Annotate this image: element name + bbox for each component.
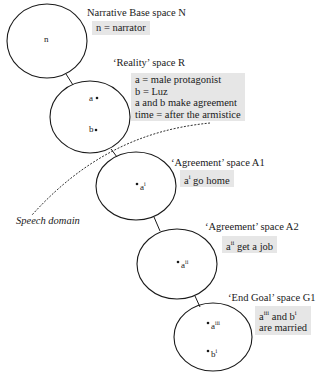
note-line: aiii and bi (259, 307, 307, 322)
element-dot (177, 261, 180, 264)
space-n-notes: n = narrator (92, 21, 150, 35)
element-a-i: ai (140, 179, 146, 192)
element-dot (207, 350, 210, 353)
element-dot (95, 129, 98, 132)
element-sup: iii (215, 320, 220, 326)
note-line: a = male protagonist (135, 74, 241, 86)
space-g1-notes: aiii and bi are married (255, 306, 311, 335)
space-g1-circle (174, 303, 252, 371)
space-a1-title: ‘Agreement’ space A1 (171, 157, 265, 169)
element-sup: ii (185, 259, 188, 265)
space-g1-title: ‘End Goal’ space G1 (228, 292, 316, 304)
note-sup: i (295, 309, 297, 316)
space-a2-notes: aii get a job (222, 236, 277, 253)
note-line: time = after the armistice (135, 109, 241, 121)
space-r-notes: a = male protagonist b = Luz a and b mak… (131, 73, 245, 121)
element-dot (96, 97, 99, 100)
note-line: are married (259, 322, 307, 334)
element-b-i: bi (211, 346, 217, 359)
space-a2-circle (137, 229, 217, 299)
note-text: go home (190, 175, 229, 186)
element-n: n (44, 34, 49, 44)
element-sup: i (216, 348, 218, 354)
element-a-ii: aii (181, 257, 188, 270)
element-b: b (89, 124, 94, 134)
space-n-title: Narrative Base space N (87, 7, 186, 19)
space-r-circle (50, 81, 130, 153)
speech-domain-boundary (32, 123, 210, 215)
note-line: a and b make agreement (135, 97, 241, 109)
note-line: n = narrator (96, 22, 146, 34)
space-a2-title: ‘Agreement’ space A2 (205, 221, 299, 233)
connector-a1-a2 (154, 217, 160, 231)
space-a1-circle (96, 152, 176, 220)
element-a: a (89, 93, 93, 103)
connector-n-r (66, 74, 73, 85)
note-text: get a job (234, 241, 273, 252)
space-a1-notes: ai go home (180, 170, 234, 187)
speech-domain-label: Speech domain (16, 215, 80, 226)
element-a-iii: aiii (211, 318, 220, 331)
note-text: and b (269, 311, 295, 322)
space-r-title: ‘Reality’ space R (113, 57, 185, 69)
element-sup: i (144, 181, 146, 187)
note-line: b = Luz (135, 86, 241, 98)
element-dot (136, 183, 139, 186)
element-dot (207, 322, 210, 325)
